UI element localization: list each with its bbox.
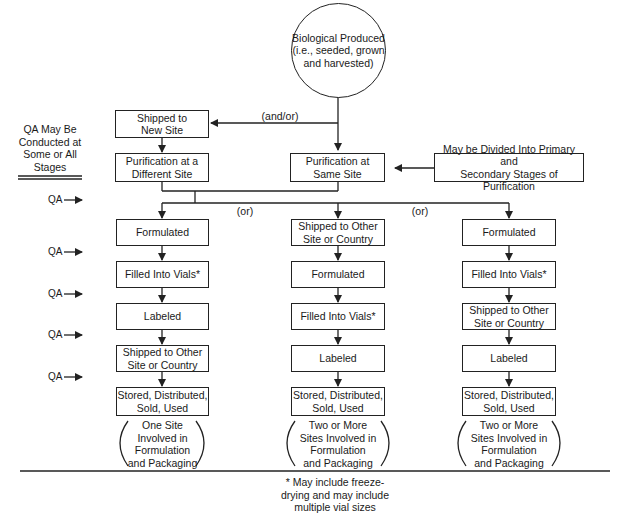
col1-step: Labeled: [116, 303, 209, 330]
purification-note-box: May be Divided Into Primary and Secondar…: [434, 153, 584, 182]
source-label: Biological Produced (i.e., seeded, grown…: [292, 32, 385, 70]
col1-note: One Site Involved in Formulation and Pac…: [116, 419, 209, 469]
col2-step: Labeled: [291, 345, 385, 372]
or-label-2: (or): [400, 205, 440, 218]
shipped-new-site-box: Shipped to New Site: [115, 110, 209, 138]
source-circle: Biological Produced (i.e., seeded, grown…: [291, 3, 386, 98]
or-label-1: (or): [225, 205, 265, 218]
qa-marker: QA: [48, 329, 62, 340]
col1-step: Stored, Distributed, Sold, Used: [116, 387, 209, 416]
qa-marker: QA: [48, 371, 62, 382]
qa-marker: QA: [48, 194, 62, 205]
and-or-label: (and/or): [240, 110, 320, 123]
col3-step: Labeled: [462, 345, 556, 372]
col3-step: Stored, Distributed, Sold, Used: [462, 387, 556, 416]
col3-note: Two or More Sites Involved in Formulatio…: [457, 419, 561, 469]
qa-marker: QA: [48, 288, 62, 299]
col2-step: Filled Into Vials*: [291, 303, 385, 330]
col2-step: Formulated: [291, 261, 385, 288]
purification-different-box: Purification at a Different Site: [115, 153, 209, 182]
col2-note: Two or More Sites Involved in Formulatio…: [286, 419, 390, 469]
purification-same-box: Purification at Same Site: [290, 153, 385, 182]
col1-step: Shipped to Other Site or Country: [116, 345, 209, 372]
col3-step: Filled Into Vials*: [462, 261, 556, 288]
col1-step: Filled Into Vials*: [116, 261, 209, 288]
qa-marker: QA: [48, 246, 62, 257]
col3-step: Shipped to Other Site or Country: [462, 303, 556, 330]
col3-step: Formulated: [462, 219, 556, 246]
footnote: * May include freeze- drying and may inc…: [260, 476, 410, 514]
col2-step: Shipped to Other Site or Country: [291, 219, 385, 246]
qa-note: QA May Be Conducted at Some or All Stage…: [5, 123, 95, 173]
col1-step: Formulated: [116, 219, 209, 246]
col2-step: Stored, Distributed, Sold, Used: [291, 387, 385, 416]
